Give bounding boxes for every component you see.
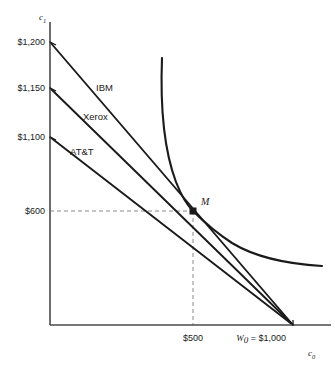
y-tick-label-600: $600 [25,206,45,216]
figure-container: $1,200 $1,150 $1,100 $600 $500 W0 = $1,0… [0,0,335,376]
series-label-ibm: IBM [96,82,113,93]
y-tick-label-1100: $1,100 [17,132,45,142]
series-label-xerox: Xerox [83,111,108,122]
y-axis-title-subscript: 1 [43,17,46,24]
wealth-value: $1,000 [258,333,286,343]
optimum-point-marker [190,208,197,215]
budget-line-indifference-curve-chart: $1,200 $1,150 $1,100 $600 $500 W0 = $1,0… [0,0,335,376]
x-tick-label-500: $500 [183,333,203,343]
series-label-att: AT&T [70,146,94,157]
optimum-point-label: M [200,196,210,207]
y-tick-label-1200: $1,200 [17,37,45,47]
y-tick-label-1150: $1,150 [17,83,45,93]
wealth-equals: = [248,333,258,343]
